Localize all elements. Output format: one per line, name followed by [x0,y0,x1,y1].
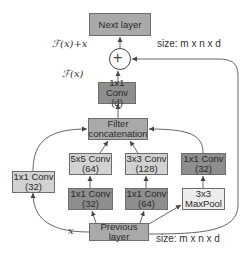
left-conv-filters: (32) [25,182,42,192]
add-symbol: + [113,50,122,66]
conv-1x1-d-filters: (d) [111,98,123,108]
conv-5x5-filters: (64) [82,164,99,174]
fx-label: ℱ(x) [62,68,83,79]
conv-1x1-d-label: 1x1 Conv [99,78,135,98]
maxpool-3x3-node: 3x3 MaxPool [182,188,225,210]
filter-concat-label-2: concatenation [88,129,147,139]
previous-layer-node: Previous layer [89,223,149,241]
conv-3x3-filters: (128) [135,164,157,174]
right-conv-1x1-node: 1x1 Conv (32) [181,153,226,175]
size-label-top: size: m x n x d [157,38,221,49]
fx-plus-x-label: ℱ(x)+x [52,38,87,49]
reduce3-filters: (64) [138,199,155,209]
size-label-bottom: size: m x n x d [156,233,220,244]
reduce-conv-1x1-32-node: 1x1 Conv (32) [68,188,113,210]
next-layer-label: Next layer [99,20,142,30]
reduce-conv-1x1-64-node: 1x1 Conv (64) [125,188,168,210]
next-layer-node: Next layer [89,13,151,36]
reduce5-filters: (32) [82,199,99,209]
right-conv-filters: (32) [195,164,212,174]
conv-5x5-node: 5x5 Conv (64) [69,153,112,175]
conv-1x1-d-node: 1x1 Conv (d) [98,82,136,104]
residual-inception-diagram: + Next layer 1x1 Conv (d) Filter concate… [0,0,249,257]
filter-concatenation-node: Filter concatenation [88,118,148,140]
conv-3x3-node: 3x3 Conv (128) [125,153,168,175]
previous-layer-label: Previous layer [90,222,148,242]
left-conv-1x1-node: 1x1 Conv (32) [12,171,55,193]
maxpool-label-2: MaxPool [185,199,222,209]
x-label: x [68,225,74,236]
